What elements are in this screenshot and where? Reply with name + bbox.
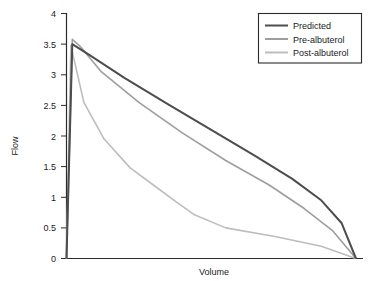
y-axis-title: Flow xyxy=(10,136,20,156)
y-tick-label-3-5: 3.5 xyxy=(43,40,56,50)
legend-label-pre-albuterol: Pre-albuterol xyxy=(293,35,345,45)
legend-label-predicted: Predicted xyxy=(293,21,331,31)
x-axis-group: Volume xyxy=(67,259,364,278)
y-axis-group: 4 3.5 3 2.5 2 1.5 1 0.5 0 Flow xyxy=(10,9,67,264)
y-tick-label-2-5: 2.5 xyxy=(43,101,56,111)
y-tick-label-0: 0 xyxy=(51,254,56,264)
y-axis-ticks xyxy=(61,14,67,259)
y-tick-label-0-5: 0.5 xyxy=(43,223,56,233)
legend: Predicted Pre-albuterol Post-albuterol xyxy=(259,14,362,64)
y-tick-label-3: 3 xyxy=(51,70,56,80)
chart-canvas: 4 3.5 3 2.5 2 1.5 1 0.5 0 Flow Volume xyxy=(0,0,374,281)
legend-label-post-albuterol: Post-albuterol xyxy=(293,48,349,58)
series-group xyxy=(67,39,357,258)
x-axis-title: Volume xyxy=(199,267,229,277)
y-tick-label-4: 4 xyxy=(51,9,56,19)
y-tick-label-1: 1 xyxy=(51,193,56,203)
y-tick-label-1-5: 1.5 xyxy=(43,162,56,172)
flow-volume-chart: 4 3.5 3 2.5 2 1.5 1 0.5 0 Flow Volume xyxy=(0,0,374,281)
y-tick-label-2: 2 xyxy=(51,132,56,142)
y-axis-tick-labels: 4 3.5 3 2.5 2 1.5 1 0.5 0 xyxy=(43,9,56,264)
series-pre-albuterol xyxy=(67,39,357,258)
